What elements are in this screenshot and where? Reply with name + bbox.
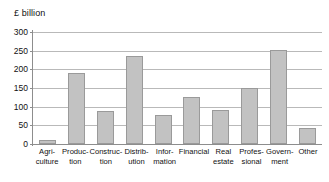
x-axis-label-government: Govern-ment	[266, 147, 294, 166]
bar-slot	[33, 32, 62, 144]
bar-slot	[206, 32, 235, 144]
bar-government[interactable]	[270, 50, 287, 144]
bar-chart-figure: £ billion 050100150200250300 Agri-cultur…	[0, 0, 329, 182]
x-axis-label-line: Construc-	[89, 147, 122, 157]
x-axis-label-information: Infor-mation	[151, 147, 179, 166]
x-axis-label-line: Agri-	[33, 147, 61, 157]
bar-slot	[264, 32, 293, 144]
bar-slot	[120, 32, 149, 144]
bar-production[interactable]	[68, 73, 85, 144]
x-axis-label-other: Other	[294, 147, 322, 166]
x-axis-label-real-estate: Realestate	[209, 147, 237, 166]
x-axis-label-line: Govern-	[266, 147, 294, 157]
bar-professional[interactable]	[241, 88, 258, 144]
x-axis-label-line: culture	[33, 157, 61, 167]
y-axis-tick-mark	[30, 144, 33, 145]
x-axis-label-line: Financial	[179, 147, 209, 157]
bar-slot	[178, 32, 207, 144]
x-axis-labels: Agri-cultureProduc-tionConstruc-tionDist…	[33, 147, 322, 166]
x-axis-label-line: tion	[61, 157, 89, 167]
bar-other[interactable]	[299, 128, 316, 144]
bar-information[interactable]	[155, 115, 172, 144]
gridline-0	[33, 144, 322, 145]
bar-financial[interactable]	[183, 97, 200, 144]
x-axis-label-line: Distrib-	[122, 147, 150, 157]
x-axis-label-line: Infor-	[151, 147, 179, 157]
bar-distribution[interactable]	[126, 56, 143, 144]
x-axis-label-line: ment	[266, 157, 294, 167]
x-axis-label-distribution: Distrib-ution	[122, 147, 150, 166]
bar-real-estate[interactable]	[212, 110, 229, 144]
bar-agriculture[interactable]	[39, 140, 56, 144]
bar-slot	[91, 32, 120, 144]
x-axis-label-agriculture: Agri-culture	[33, 147, 61, 166]
bar-slot	[235, 32, 264, 144]
x-axis-label-line: tion	[89, 157, 122, 167]
bar-construction[interactable]	[97, 111, 114, 144]
x-axis-label-line: Produc-	[61, 147, 89, 157]
x-axis-label-line: estate	[209, 157, 237, 167]
x-axis-label-line: sional	[237, 157, 265, 167]
x-axis-label-line: Real	[209, 147, 237, 157]
x-axis-label-line: Other	[294, 147, 322, 157]
x-axis-label-line: ution	[122, 157, 150, 167]
x-axis-label-line: Profes-	[237, 147, 265, 157]
x-axis-label-line: mation	[151, 157, 179, 167]
bar-slot	[149, 32, 178, 144]
bar-slot	[62, 32, 91, 144]
x-axis-label-construction: Construc-tion	[89, 147, 122, 166]
x-axis-label-financial: Financial	[179, 147, 209, 166]
y-axis-unit-label: £ billion	[14, 8, 45, 19]
x-axis-label-production: Produc-tion	[61, 147, 89, 166]
bars-layer	[33, 32, 322, 144]
bar-slot	[293, 32, 322, 144]
x-axis-label-professional: Profes-sional	[237, 147, 265, 166]
